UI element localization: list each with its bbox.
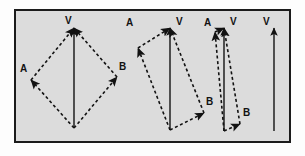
vector-b-translated xyxy=(74,28,117,77)
vector-b xyxy=(74,77,117,128)
vector-a xyxy=(31,80,74,128)
vector-panel-panel-2 xyxy=(138,28,204,130)
figure-root: VABVABVABV xyxy=(0,0,305,156)
vector-b-translated xyxy=(170,28,204,113)
label-a-panel-3: A xyxy=(204,17,211,28)
vector-a xyxy=(138,48,170,130)
label-v-panel-3: V xyxy=(230,16,237,27)
vector-layer xyxy=(31,28,274,131)
label-v-panel-2: V xyxy=(176,16,183,27)
vector-diagram-canvas: VABVABVABV xyxy=(0,0,305,156)
label-v-panel-4: V xyxy=(263,16,270,27)
label-b-panel-1: B xyxy=(119,61,126,72)
vector-b-translated xyxy=(224,28,240,124)
vector-panel-panel-1 xyxy=(31,28,117,128)
label-v-panel-1: V xyxy=(65,15,72,26)
vector-b xyxy=(170,113,204,130)
label-b-panel-3: B xyxy=(243,107,250,118)
label-a-panel-1: A xyxy=(20,63,27,74)
vector-a-translated xyxy=(138,28,170,48)
vector-a-translated xyxy=(31,28,74,80)
vector-panel-panel-3 xyxy=(215,28,240,131)
label-a-panel-2: A xyxy=(126,17,133,28)
vector-b xyxy=(224,124,240,131)
vector-a xyxy=(215,32,224,131)
vector-a-translated xyxy=(215,28,224,32)
label-b-panel-2: B xyxy=(206,96,213,107)
